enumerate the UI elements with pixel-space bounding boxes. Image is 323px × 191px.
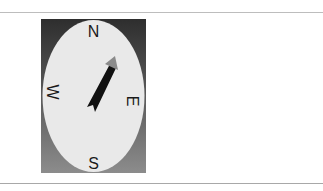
top-divider xyxy=(0,12,323,13)
label-east: E xyxy=(124,96,141,107)
bottom-divider xyxy=(0,183,323,184)
label-north: N xyxy=(88,23,100,40)
compass-icon: N S E W xyxy=(41,19,146,173)
label-south: S xyxy=(88,155,99,172)
compass-image: N S E W xyxy=(41,19,146,173)
label-west: W xyxy=(44,84,61,100)
